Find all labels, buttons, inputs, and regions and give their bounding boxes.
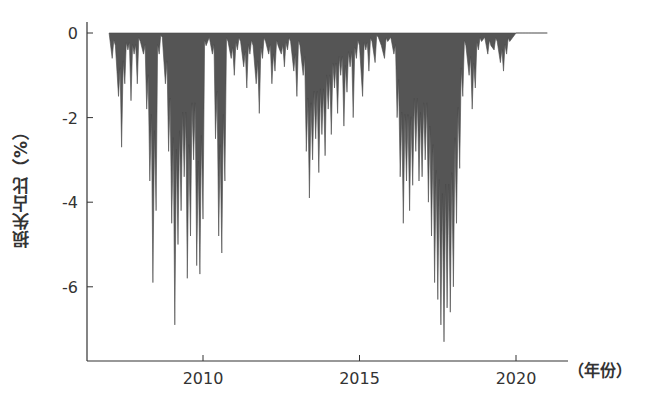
y-ticks: 0-2-4-6 [62, 24, 93, 297]
plot-area [109, 33, 547, 342]
y-tick-label: -6 [62, 278, 78, 297]
x-axis-unit-label: （年份） [568, 357, 632, 381]
y-tick-label: 0 [68, 24, 78, 43]
drawdown-chart: 0-2-4-6 201020152020 [0, 0, 645, 401]
x-ticks: 201020152020 [183, 355, 537, 388]
drawdown-area [109, 33, 547, 342]
x-tick-label: 2020 [496, 369, 537, 388]
y-axis-label: 损失占比（%） [8, 110, 48, 260]
y-tick-label: -2 [62, 109, 78, 128]
y-tick-label: -4 [62, 193, 78, 212]
x-tick-label: 2010 [183, 369, 224, 388]
x-tick-label: 2015 [339, 369, 380, 388]
